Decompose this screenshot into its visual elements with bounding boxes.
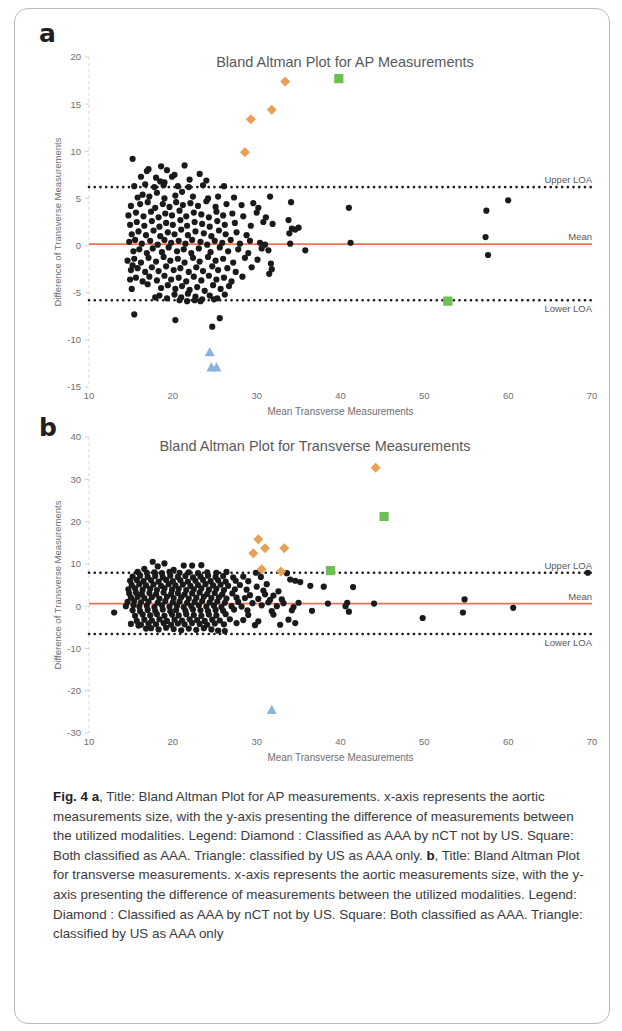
data-point-circle bbox=[129, 262, 135, 268]
data-point-circle bbox=[173, 199, 179, 205]
data-point-circle bbox=[170, 222, 176, 228]
y-axis-label: Difference of Transverse Measurements bbox=[52, 137, 63, 306]
series-circle bbox=[124, 156, 511, 330]
data-point-circle bbox=[197, 259, 203, 265]
reference-line-label: Upper LOA bbox=[544, 174, 592, 185]
data-point-circle bbox=[295, 600, 301, 606]
data-point-circle bbox=[178, 226, 184, 232]
data-point-circle bbox=[371, 601, 377, 607]
data-point-circle bbox=[250, 200, 256, 206]
x-tick-label: 60 bbox=[503, 390, 514, 401]
reference-line-label: Upper LOA bbox=[544, 560, 592, 571]
data-point-circle bbox=[197, 239, 203, 245]
data-point-circle bbox=[206, 214, 212, 220]
data-point-circle bbox=[193, 627, 199, 633]
panel-b-plot: Bland Altman Plot for Transverse Measure… bbox=[15, 409, 611, 769]
data-point-circle bbox=[145, 281, 151, 287]
data-point-circle bbox=[133, 275, 139, 281]
data-point-circle bbox=[196, 245, 202, 251]
data-point-circle bbox=[166, 204, 172, 210]
data-point-circle bbox=[183, 213, 189, 219]
y-tick-label: 0 bbox=[76, 240, 81, 251]
data-point-circle bbox=[154, 190, 160, 196]
data-point-circle bbox=[227, 616, 233, 622]
data-point-circle bbox=[191, 209, 197, 215]
data-point-diamond bbox=[248, 548, 258, 558]
data-point-circle bbox=[209, 263, 215, 269]
data-point-circle bbox=[280, 600, 286, 606]
data-point-circle bbox=[233, 620, 239, 626]
data-point-circle bbox=[214, 218, 220, 224]
data-point-circle bbox=[223, 201, 229, 207]
data-point-circle bbox=[146, 274, 152, 280]
data-point-circle bbox=[164, 167, 170, 173]
data-point-circle bbox=[160, 201, 166, 207]
data-point-circle bbox=[139, 241, 145, 247]
data-point-circle bbox=[259, 602, 265, 608]
data-point-circle bbox=[124, 258, 130, 264]
data-point-circle bbox=[147, 238, 153, 244]
data-point-circle bbox=[485, 252, 491, 258]
data-point-circle bbox=[184, 298, 190, 304]
data-point-circle bbox=[172, 317, 178, 323]
y-tick-label: 40 bbox=[70, 431, 81, 442]
x-tick-label: 60 bbox=[503, 736, 514, 747]
data-point-circle bbox=[242, 255, 248, 261]
series-triangle bbox=[267, 705, 277, 714]
data-point-circle bbox=[182, 241, 188, 247]
data-point-circle bbox=[161, 179, 167, 185]
data-point-circle bbox=[155, 563, 161, 569]
data-point-square bbox=[326, 566, 335, 575]
data-point-circle bbox=[136, 246, 142, 252]
data-point-circle bbox=[128, 203, 134, 209]
data-point-circle bbox=[350, 584, 356, 590]
x-tick-label: 20 bbox=[168, 736, 179, 747]
data-point-circle bbox=[245, 612, 251, 618]
data-point-diamond bbox=[246, 114, 256, 124]
data-point-circle bbox=[111, 609, 117, 615]
data-point-circle bbox=[229, 210, 235, 216]
data-point-circle bbox=[238, 603, 244, 609]
data-point-circle bbox=[209, 324, 215, 330]
data-point-circle bbox=[277, 622, 283, 628]
data-point-circle bbox=[146, 193, 152, 199]
data-point-circle bbox=[208, 626, 214, 632]
data-point-circle bbox=[211, 296, 217, 302]
data-point-circle bbox=[217, 244, 223, 250]
data-point-circle bbox=[286, 230, 292, 236]
data-point-circle bbox=[129, 286, 135, 292]
data-point-circle bbox=[225, 248, 231, 254]
x-tick-label: 70 bbox=[587, 390, 598, 401]
data-point-circle bbox=[205, 254, 211, 260]
data-point-circle bbox=[129, 231, 135, 237]
data-point-triangle bbox=[267, 705, 277, 714]
data-point-circle bbox=[176, 208, 182, 214]
data-point-circle bbox=[247, 238, 253, 244]
data-point-circle bbox=[288, 199, 294, 205]
data-point-circle bbox=[201, 625, 207, 631]
data-point-circle bbox=[145, 255, 151, 261]
data-point-circle bbox=[155, 242, 161, 248]
data-point-circle bbox=[220, 573, 226, 579]
y-tick-label: 10 bbox=[70, 146, 81, 157]
data-point-circle bbox=[194, 284, 200, 290]
data-point-circle bbox=[205, 573, 211, 579]
data-point-circle bbox=[189, 237, 195, 243]
data-point-square bbox=[334, 74, 343, 83]
data-point-circle bbox=[133, 209, 139, 215]
data-point-circle bbox=[181, 162, 187, 168]
data-point-circle bbox=[161, 195, 167, 201]
caption-bold-segment: b bbox=[426, 848, 434, 863]
reference-line-label: Mean bbox=[568, 591, 592, 602]
data-point-circle bbox=[460, 609, 466, 615]
data-point-circle bbox=[142, 181, 148, 187]
data-point-circle bbox=[145, 607, 151, 613]
data-point-circle bbox=[346, 205, 352, 211]
data-point-circle bbox=[262, 591, 268, 597]
data-point-circle bbox=[137, 201, 143, 207]
data-point-circle bbox=[265, 247, 271, 253]
data-point-circle bbox=[149, 218, 155, 224]
data-point-circle bbox=[255, 596, 261, 602]
y-tick-label: -15 bbox=[67, 381, 81, 392]
data-point-circle bbox=[138, 259, 144, 265]
